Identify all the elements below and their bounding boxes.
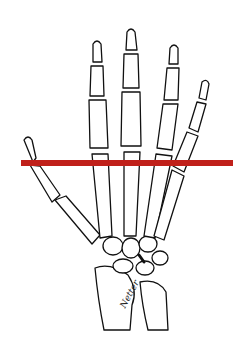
red-marker-line <box>0 0 237 352</box>
hand-skeleton-illustration: Netter <box>0 0 237 352</box>
